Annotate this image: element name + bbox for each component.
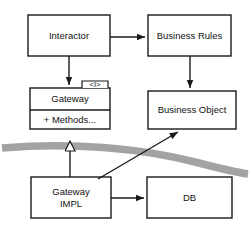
diagram-canvas: Interactor Business Rules Gateway + Meth… [0,0,250,233]
node-db-shape[interactable] [147,177,232,218]
node-gateway-shape[interactable] [30,88,110,129]
node-interactor-shape[interactable] [28,15,110,56]
diagram-svg [0,0,250,233]
interface-stereotype-icon [82,81,108,88]
node-business-rules-shape[interactable] [148,15,231,56]
architectural-boundary-band [2,146,248,174]
node-gateway-impl-shape[interactable] [31,177,111,218]
node-business-object-shape[interactable] [148,91,236,129]
